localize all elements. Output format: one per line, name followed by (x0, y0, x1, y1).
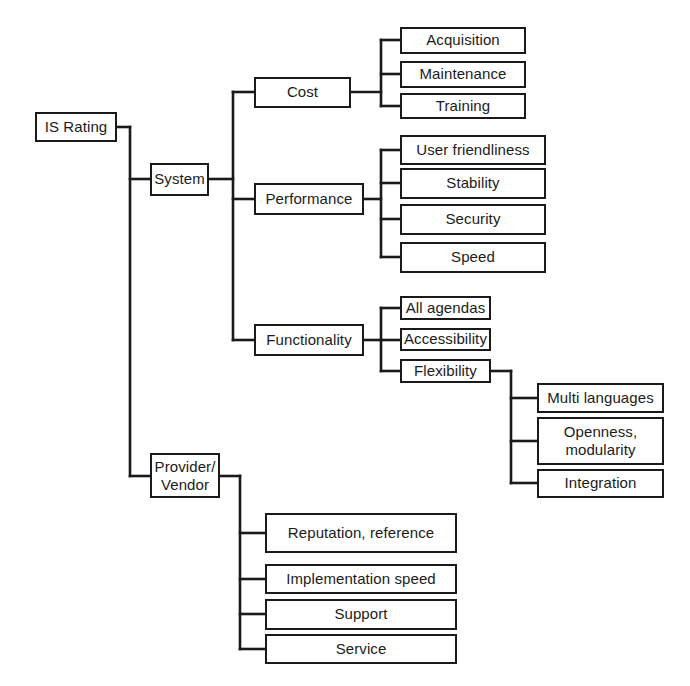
node-performance[interactable]: Performance (254, 183, 364, 215)
node-service[interactable]: Service (265, 634, 457, 664)
node-security[interactable]: Security (400, 204, 546, 235)
node-label: Service (336, 641, 387, 658)
node-label: Integration (565, 475, 637, 492)
node-label: Stability (446, 175, 499, 192)
node-label: Speed (451, 249, 495, 266)
node-label: Cost (287, 84, 318, 101)
node-training[interactable]: Training (400, 93, 526, 119)
node-implementation-speed[interactable]: Implementation speed (265, 564, 457, 594)
node-label: Openness, modularity (564, 423, 637, 459)
node-label: Accessibility (404, 331, 487, 348)
node-label: Provider/ Vendor (155, 458, 216, 494)
node-label: All agendas (406, 300, 486, 317)
node-accessibility[interactable]: Accessibility (400, 328, 491, 351)
node-label: IS Rating (45, 119, 108, 136)
node-speed[interactable]: Speed (400, 242, 546, 273)
node-openness-modularity[interactable]: Openness, modularity (537, 417, 664, 465)
node-reputation-reference[interactable]: Reputation, reference (265, 513, 457, 553)
node-label: Functionality (266, 332, 352, 349)
node-label: User friendliness (416, 142, 529, 159)
node-support[interactable]: Support (265, 599, 457, 630)
node-label: Performance (266, 191, 353, 208)
node-is-rating[interactable]: IS Rating (35, 112, 117, 142)
node-label: Acquisition (426, 32, 500, 49)
node-label: Maintenance (420, 66, 507, 83)
node-maintenance[interactable]: Maintenance (400, 61, 526, 88)
node-system[interactable]: System (150, 163, 209, 196)
node-label: Security (446, 211, 501, 228)
node-all-agendas[interactable]: All agendas (400, 296, 491, 320)
node-cost[interactable]: Cost (254, 77, 351, 108)
node-label: Training (436, 98, 490, 115)
node-label: Implementation speed (286, 571, 436, 588)
node-user-friendliness[interactable]: User friendliness (400, 135, 546, 165)
node-label: Reputation, reference (288, 525, 434, 542)
node-functionality[interactable]: Functionality (254, 324, 364, 356)
node-flexibility[interactable]: Flexibility (400, 359, 491, 383)
node-label: Support (334, 606, 387, 623)
node-multi-languages[interactable]: Multi languages (537, 383, 664, 413)
node-acquisition[interactable]: Acquisition (400, 27, 526, 54)
node-provider-vendor[interactable]: Provider/ Vendor (150, 453, 220, 498)
is-rating-tree-diagram: IS Rating System Cost Acquisition Mainte… (0, 0, 690, 686)
node-label: Flexibility (414, 363, 477, 380)
node-stability[interactable]: Stability (400, 168, 546, 199)
node-label: Multi languages (547, 390, 654, 407)
node-label: System (154, 171, 205, 188)
node-integration[interactable]: Integration (537, 469, 664, 498)
